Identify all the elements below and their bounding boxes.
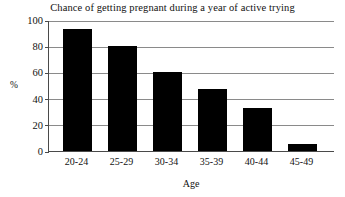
- y-axis-tick-labels: 020406080100: [0, 21, 43, 152]
- bar: [288, 144, 317, 151]
- bar-slot: [235, 21, 280, 151]
- y-axis-tick-label: 40: [3, 95, 43, 105]
- x-axis-tick-label: 35-39: [189, 156, 234, 168]
- x-axis-tick-label: 40-44: [234, 156, 279, 168]
- bar-slot: [100, 21, 145, 151]
- bar-slot: [55, 21, 100, 151]
- bar: [63, 29, 92, 151]
- bar: [153, 72, 182, 151]
- plot-area: [48, 21, 334, 152]
- y-axis-tick-label: 100: [3, 16, 43, 26]
- bar-slot: [145, 21, 190, 151]
- y-axis-label: %: [10, 80, 18, 90]
- y-axis-tick-label: 80: [3, 42, 43, 52]
- y-axis-tick-label: 20: [3, 121, 43, 131]
- bar: [243, 108, 272, 151]
- x-axis-tick-label: 25-29: [99, 156, 144, 168]
- y-axis-tick-label: 0: [3, 147, 43, 157]
- x-axis-tick-label: 45-49: [279, 156, 324, 168]
- bars-group: [49, 21, 334, 151]
- x-axis-tick-label: 20-24: [54, 156, 99, 168]
- x-axis-tick-label: 30-34: [144, 156, 189, 168]
- bar-slot: [280, 21, 325, 151]
- bar-slot: [190, 21, 235, 151]
- bar-chart-figure: Chance of getting pregnant during a year…: [0, 0, 345, 197]
- bar: [108, 46, 137, 151]
- x-axis-tick-labels: 20-2425-2930-3435-3940-4445-49: [48, 156, 334, 172]
- y-axis-tick-label: 60: [3, 68, 43, 78]
- y-axis-tick-mark: [45, 152, 49, 153]
- chart-title: Chance of getting pregnant during a year…: [0, 1, 345, 14]
- bar: [198, 89, 227, 151]
- x-axis-label: Age: [48, 178, 334, 189]
